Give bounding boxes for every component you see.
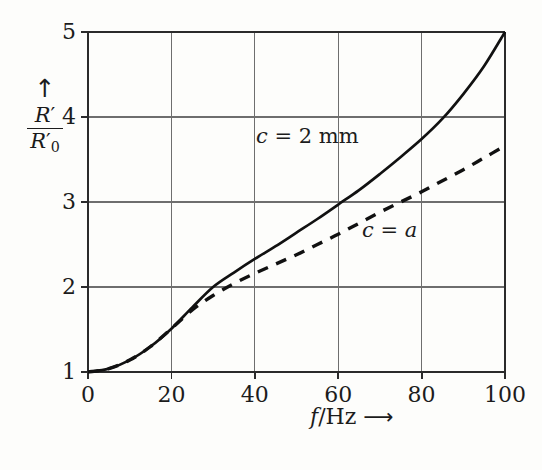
y-tick-label: 1	[62, 361, 76, 383]
x-tick-label: 80	[408, 384, 436, 406]
x-tick-label: 60	[324, 384, 352, 406]
dashed-label-variable: c	[362, 218, 374, 242]
y-axis-fraction: R′ R′0	[27, 105, 63, 154]
y-axis-numerator: R′	[27, 105, 63, 127]
y-axis-numerator-prime: ′	[51, 103, 56, 127]
x-tick-label: 20	[157, 384, 185, 406]
x-axis-title: f/Hz⟶	[310, 404, 393, 429]
y-axis-denominator-subscript: 0	[51, 139, 60, 155]
x-axis-unit: Hz	[326, 404, 357, 429]
y-axis-denominator-symbol: R	[30, 129, 46, 153]
x-tick-label: 40	[241, 384, 269, 406]
chart-figure: 12345 020406080100 ↑ R′ R′0 f/Hz⟶ c = 2 …	[0, 0, 542, 470]
x-tick-label: 0	[81, 384, 95, 406]
solid-label-value: 2 mm	[299, 124, 359, 148]
dashed-curve-label: c = a	[362, 218, 417, 242]
y-axis-denominator: R′0	[27, 130, 63, 154]
y-tick-label: 5	[62, 21, 76, 43]
x-axis-arrow-icon: ⟶	[363, 405, 393, 429]
x-tick-label: 100	[484, 384, 526, 406]
data-series-dashed	[88, 146, 505, 372]
y-axis-title: ↑ R′ R′0	[18, 78, 72, 154]
solid-label-equals: =	[274, 124, 292, 148]
y-axis-arrow-icon: ↑	[18, 78, 72, 101]
axes-frame	[81, 32, 505, 379]
dashed-label-equals: =	[380, 218, 398, 242]
gridlines	[88, 32, 505, 372]
y-tick-label: 2	[62, 276, 76, 298]
solid-curve-label: c = 2 mm	[256, 124, 359, 148]
y-axis-numerator-symbol: R	[35, 103, 51, 127]
y-tick-label: 3	[62, 191, 76, 213]
solid-label-variable: c	[256, 124, 268, 148]
x-axis-variable: f	[310, 404, 318, 429]
dashed-label-value: a	[405, 218, 418, 242]
x-axis-slash: /	[318, 404, 325, 429]
